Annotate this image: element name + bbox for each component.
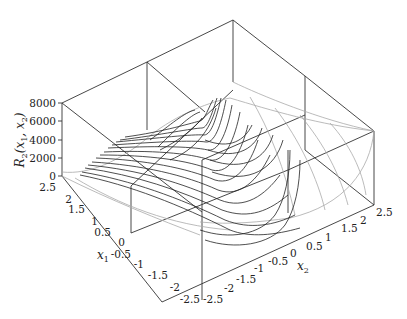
x2-tick: 1 (325, 231, 332, 243)
x1-tick: 1.5 (68, 203, 85, 215)
z-axis: 8000 6000 4000 2000 0 R2(x1, x2) (13, 97, 62, 182)
x1-tick: -2 (170, 281, 180, 293)
x1-tick: -1 (134, 258, 144, 270)
x1-axis-label: x1 (97, 248, 109, 264)
x2-tick: -1.5 (236, 273, 256, 285)
x2-tick: 2.5 (376, 206, 393, 218)
contour-lines (80, 98, 300, 245)
x1-axis: 2.5 2 1.5 1 0.5 0 -0.5 -1 -1.5 -2 -2.5 x… (39, 181, 200, 305)
x2-tick: 0 (290, 247, 297, 259)
x1-tick: -2.5 (180, 293, 200, 305)
z-tick: 2000 (29, 152, 56, 164)
x1-tick: -0.5 (111, 248, 131, 260)
x1-tick: -1.5 (148, 269, 168, 281)
x1-tick: 0 (118, 236, 125, 248)
x2-axis-label: x2 (297, 259, 309, 275)
z-tick: 6000 (29, 115, 56, 127)
x1-tick: 2.5 (39, 181, 56, 193)
surface-plot: 8000 6000 4000 2000 0 R2(x1, x2) 2.5 2 1… (0, 0, 407, 319)
x2-tick: -2.5 (203, 293, 223, 305)
z-axis-label: R2(x1, x2) (13, 112, 29, 168)
x1-tick: 0.5 (94, 226, 111, 238)
z-tick: 4000 (29, 134, 56, 146)
x2-tick: -1 (254, 262, 264, 274)
x2-tick: 0.5 (306, 240, 323, 252)
x2-tick: 1.5 (341, 222, 358, 234)
z-tick: 8000 (29, 97, 56, 109)
x2-axis: -2.5 -2 -1.5 -1 -0.5 0 0.5 1 1.5 2 2.5 x… (203, 206, 393, 305)
x2-tick: 2 (360, 214, 367, 226)
x2-tick: -0.5 (268, 255, 288, 267)
x2-tick: -2 (224, 282, 234, 294)
